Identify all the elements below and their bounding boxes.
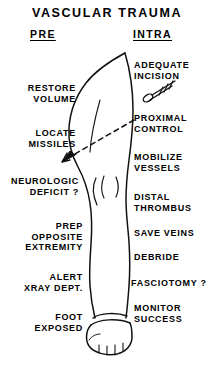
intra-item-4: DISTAL THROMBUS <box>134 192 214 213</box>
column-heading-intra: INTRA <box>133 28 172 40</box>
thigh-muscle-crease <box>90 100 100 152</box>
intra-item-5: SAVE VEINS <box>134 228 214 239</box>
intra-item-3: MOBILIZE VESSELS <box>134 152 214 173</box>
column-heading-pre: PRE <box>30 28 56 40</box>
intra-item-7: FASCIOTOMY ? <box>131 278 214 289</box>
wrapped-foot-icon <box>87 314 132 355</box>
vascular-trauma-diagram: VASCULAR TRAUMA PRE INTRA <box>0 0 214 365</box>
page-title: VASCULAR TRAUMA <box>0 6 214 20</box>
scalpel-icon <box>142 81 175 104</box>
intra-item-6: DEBRIDE <box>134 252 214 263</box>
pre-item-5: ALERT XRAY DEPT. <box>0 272 83 293</box>
intra-item-2: PROXIMAL CONTROL <box>134 113 214 134</box>
pre-item-4: PREP OPPOSITE EXTREMITY <box>0 221 83 253</box>
intra-item-1: ADEQUATE INCISION <box>134 60 214 81</box>
knee-contour-marks <box>93 176 118 205</box>
pre-item-2: LOCATE MISSILES <box>0 128 76 149</box>
pre-item-1: RESTORE VOLUME <box>0 83 76 104</box>
intra-item-8: MONITOR SUCCESS <box>134 303 214 324</box>
pre-item-3: NEUROLOGIC DEFICIT ? <box>0 176 79 197</box>
pre-item-6: FOOT EXPOSED <box>0 312 83 333</box>
